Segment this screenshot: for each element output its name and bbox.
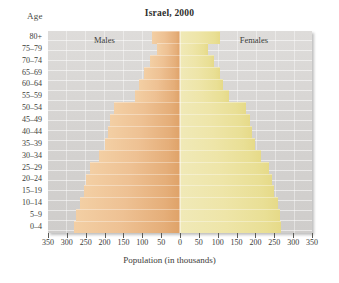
female-half bbox=[180, 185, 312, 197]
x-axis-tick-label: 350 bbox=[42, 238, 54, 248]
pyramid-row bbox=[48, 174, 312, 186]
age-group-label: 5–9 bbox=[0, 209, 45, 221]
pyramid-row bbox=[48, 67, 312, 79]
x-axis-title: Population (in thousands) bbox=[0, 255, 339, 265]
male-half bbox=[48, 90, 180, 102]
pyramid-row bbox=[48, 102, 312, 114]
male-half bbox=[48, 126, 180, 138]
female-half bbox=[180, 126, 312, 138]
age-group-label: 80+ bbox=[0, 31, 45, 43]
chart-title: Israel, 2000 bbox=[0, 8, 339, 18]
females-series-label: Females bbox=[240, 35, 268, 45]
male-half bbox=[48, 114, 180, 126]
female-half bbox=[180, 209, 312, 221]
pyramid-row bbox=[48, 79, 312, 91]
x-axis-tick-label: 300 bbox=[61, 238, 73, 248]
female-bar bbox=[180, 221, 281, 233]
female-half bbox=[180, 138, 312, 150]
x-axis-tick-label: 200 bbox=[99, 238, 111, 248]
male-half bbox=[48, 209, 180, 221]
male-half bbox=[48, 162, 180, 174]
male-half bbox=[48, 79, 180, 91]
age-group-label: 65–69 bbox=[0, 67, 45, 79]
age-group-label: 55–59 bbox=[0, 90, 45, 102]
female-half bbox=[180, 55, 312, 67]
x-axis-tick-label: 200 bbox=[249, 238, 261, 248]
age-group-label: 70–74 bbox=[0, 55, 45, 67]
female-half bbox=[180, 197, 312, 209]
male-half bbox=[48, 55, 180, 67]
bar-rows bbox=[48, 31, 312, 233]
x-axis-tick-label: 100 bbox=[136, 238, 148, 248]
female-half bbox=[180, 67, 312, 79]
male-half bbox=[48, 138, 180, 150]
age-group-label: 25–29 bbox=[0, 162, 45, 174]
age-group-label: 10–14 bbox=[0, 197, 45, 209]
male-half bbox=[48, 174, 180, 186]
pyramid-row bbox=[48, 114, 312, 126]
age-group-label: 45–49 bbox=[0, 114, 45, 126]
pyramid-row bbox=[48, 126, 312, 138]
x-axis-tick-label: 300 bbox=[287, 238, 299, 248]
male-half bbox=[48, 185, 180, 197]
male-bar bbox=[74, 221, 180, 233]
pyramid-row bbox=[48, 138, 312, 150]
males-series-label: Males bbox=[94, 35, 115, 45]
age-axis-labels: 80+75–7970–7465–6960–6455–5950–5445–4940… bbox=[0, 31, 45, 233]
age-group-label: 0–4 bbox=[0, 221, 45, 233]
female-half bbox=[180, 90, 312, 102]
female-half bbox=[180, 162, 312, 174]
male-half bbox=[48, 102, 180, 114]
x-axis-tick-label: 250 bbox=[268, 238, 280, 248]
age-group-label: 15–19 bbox=[0, 185, 45, 197]
male-half bbox=[48, 150, 180, 162]
x-axis-labels: 3503002502001501005005010015020025030035… bbox=[0, 238, 339, 250]
x-axis-tick-label: 50 bbox=[157, 238, 165, 248]
pyramid-row bbox=[48, 31, 312, 43]
age-group-label: 40–44 bbox=[0, 126, 45, 138]
x-axis-tick-label: 150 bbox=[117, 238, 129, 248]
age-group-label: 30–34 bbox=[0, 150, 45, 162]
pyramid-row bbox=[48, 162, 312, 174]
male-half bbox=[48, 221, 180, 233]
age-group-label: 75–79 bbox=[0, 43, 45, 55]
age-group-label: 35–39 bbox=[0, 138, 45, 150]
pyramid-row bbox=[48, 197, 312, 209]
pyramid-row bbox=[48, 43, 312, 55]
population-pyramid-chart: Age Israel, 2000 80+75–7970–7465–6960–64… bbox=[0, 0, 339, 283]
plot-area: Males Females bbox=[48, 31, 312, 233]
x-axis-tick-label: 150 bbox=[231, 238, 243, 248]
male-half bbox=[48, 197, 180, 209]
x-axis-tick-label: 250 bbox=[80, 238, 92, 248]
female-half bbox=[180, 79, 312, 91]
age-group-label: 60–64 bbox=[0, 79, 45, 91]
x-axis-tick-label: 100 bbox=[212, 238, 224, 248]
pyramid-row bbox=[48, 90, 312, 102]
pyramid-row bbox=[48, 221, 312, 233]
x-axis-tick-label: 0 bbox=[178, 238, 182, 248]
x-axis-tick-label: 50 bbox=[195, 238, 203, 248]
female-half bbox=[180, 114, 312, 126]
pyramid-row bbox=[48, 55, 312, 67]
age-group-label: 50–54 bbox=[0, 102, 45, 114]
x-axis-tick-label: 350 bbox=[306, 238, 318, 248]
pyramid-row bbox=[48, 150, 312, 162]
pyramid-row bbox=[48, 185, 312, 197]
female-half bbox=[180, 174, 312, 186]
pyramid-row bbox=[48, 209, 312, 221]
age-group-label: 20–24 bbox=[0, 174, 45, 186]
female-half bbox=[180, 150, 312, 162]
female-half bbox=[180, 102, 312, 114]
female-half bbox=[180, 221, 312, 233]
male-half bbox=[48, 67, 180, 79]
